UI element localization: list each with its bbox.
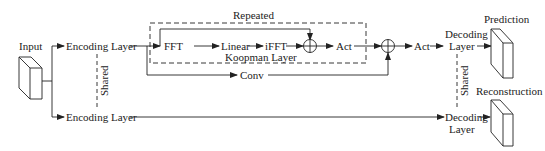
architecture-diagram: Input Encoding Layer Encoding Layer Shar… <box>0 0 545 151</box>
prediction-label: Prediction <box>484 13 530 25</box>
conv-node: Conv <box>240 69 264 81</box>
reconstruction-block-icon <box>491 100 513 146</box>
encoding-layer-bottom: Encoding Layer <box>66 111 137 123</box>
input-block-icon <box>19 57 42 99</box>
koopman-layer-label: Koopman Layer <box>225 51 297 63</box>
prediction-block-icon <box>491 29 513 78</box>
decoding-layer-bottom-line2: Layer <box>449 123 475 135</box>
fft-node: FFT <box>164 40 183 52</box>
act-inner-node: Act <box>336 40 352 52</box>
repeated-label: Repeated <box>233 9 274 21</box>
reconstruction-label: Reconstruction <box>476 85 543 97</box>
sum-node-inner-icon <box>304 40 317 53</box>
shared-label-right: Shared <box>458 65 470 96</box>
decoding-layer-top-line2: Layer <box>449 40 475 52</box>
encoding-layer-top: Encoding Layer <box>66 40 137 52</box>
decoding-layer-bottom-line1: Decoding <box>445 111 488 123</box>
input-label: Input <box>19 40 42 52</box>
decoding-layer-top-line1: Decoding <box>445 28 488 40</box>
act-outer-node: Act <box>414 40 430 52</box>
shared-label-left: Shared <box>98 65 110 96</box>
sum-node-outer-icon <box>382 40 395 53</box>
